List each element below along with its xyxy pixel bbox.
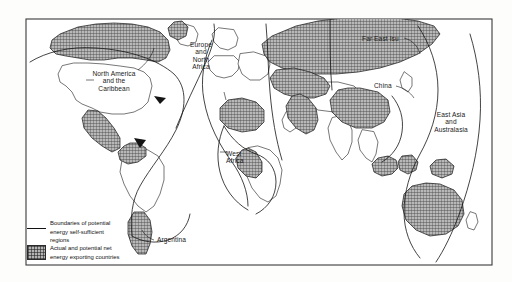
hatched-box-swatch-icon <box>27 245 46 260</box>
world-map-figure: North America and the Caribbean Europe a… <box>0 0 512 282</box>
legend-item-boundaries-label: Boundaries of potential energy self-suff… <box>50 219 110 245</box>
legend-item-exporting-countries-label: Actual and potential net energy exportin… <box>50 244 119 261</box>
legend-item-boundaries: Boundaries of potential energy self-suff… <box>27 219 110 245</box>
boundary-line-swatch-icon <box>27 224 46 234</box>
legend-item-exporting-countries: Actual and potential net energy exportin… <box>27 244 119 261</box>
map-legend: Boundaries of potential energy self-suff… <box>27 219 159 265</box>
